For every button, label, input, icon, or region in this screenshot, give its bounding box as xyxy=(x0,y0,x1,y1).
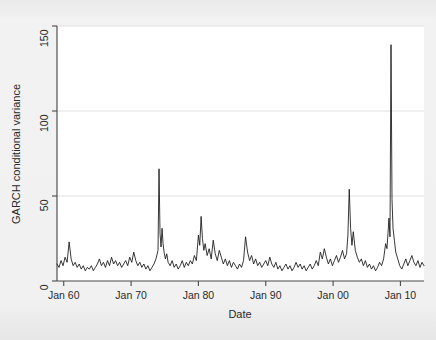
garch-conditional-variance-chart: 050100150 Jan 60Jan 70Jan 80Jan 90Jan 00… xyxy=(0,0,436,340)
x-tick-label-2010: Jan 10 xyxy=(385,289,417,301)
x-axis-ticks: Jan 60Jan 70Jan 80Jan 90Jan 00Jan 10 xyxy=(48,281,416,301)
plot-area-background xyxy=(57,26,424,281)
x-tick-label-1960: Jan 60 xyxy=(48,289,80,301)
y-axis-title: GARCH conditional variance xyxy=(10,84,22,224)
y-tick-label-150: 150 xyxy=(38,29,50,47)
y-tick-label-50: 50 xyxy=(38,199,50,211)
x-axis-title: Date xyxy=(228,308,251,320)
x-tick-label-1980: Jan 80 xyxy=(183,289,215,301)
x-tick-label-1970: Jan 70 xyxy=(115,289,147,301)
x-tick-label-1990: Jan 90 xyxy=(250,289,282,301)
y-axis-ticks: 050100150 xyxy=(38,26,57,290)
chart-figure: 050100150 Jan 60Jan 70Jan 80Jan 90Jan 00… xyxy=(0,0,436,340)
x-tick-label-2000: Jan 00 xyxy=(317,289,349,301)
y-tick-label-100: 100 xyxy=(38,114,50,132)
